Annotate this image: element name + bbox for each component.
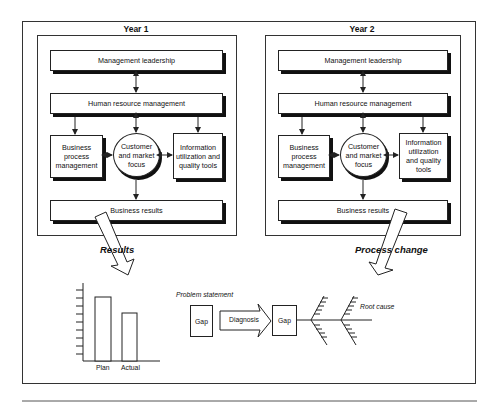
year-2-management-leadership: Management leadership	[278, 50, 448, 71]
year-1-customer-market-focus: Customer and market focus	[113, 133, 160, 177]
results-label: Results	[100, 244, 134, 255]
bar-label-plan: Plan	[96, 364, 110, 371]
gap-box-2: Gap	[272, 305, 297, 336]
year-2-customer-market-focus: Customer and market focus	[340, 133, 387, 177]
year-2-business-results: Business results	[278, 200, 448, 221]
year-1-title: Year 1	[110, 24, 162, 34]
year-1-information-quality-tools: Information utilization and quality tool…	[173, 133, 223, 179]
year-1-business-results: Business results	[50, 200, 223, 221]
year-2-human-resource-management: Human resource management	[278, 93, 448, 114]
gap-box-1: Gap	[190, 305, 213, 337]
year-1-human-resource-management: Human resource management	[50, 93, 223, 114]
year-1-business-process-management: Business process management	[50, 135, 103, 178]
year-2-information-quality-tools: Information utilization and quality tool…	[399, 133, 448, 179]
diagnosis-label: Diagnosis	[229, 316, 259, 323]
problem-statement-label: Problem statement	[176, 291, 233, 298]
year-2-business-process-management: Business process management	[278, 135, 330, 178]
bar-label-actual: Actual	[121, 364, 140, 371]
root-cause-label: Root cause	[360, 303, 394, 310]
year-2-title: Year 2	[336, 24, 388, 34]
process-change-label: Process change	[355, 244, 428, 255]
year-1-management-leadership: Management leadership	[50, 50, 223, 71]
